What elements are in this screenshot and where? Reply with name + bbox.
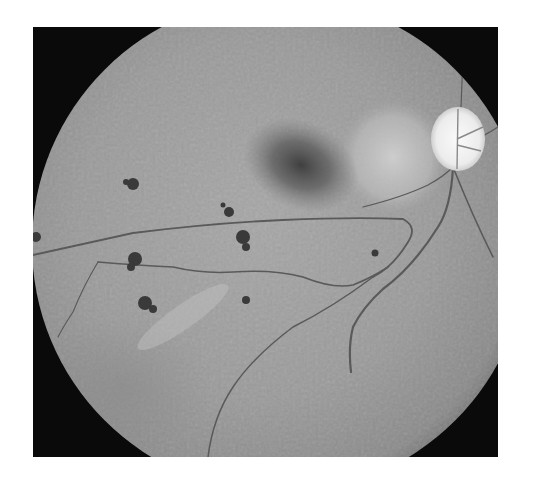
peripapillary-pallor <box>338 99 448 215</box>
fundus-photo-frame <box>33 27 498 457</box>
fundus-image <box>33 27 498 457</box>
